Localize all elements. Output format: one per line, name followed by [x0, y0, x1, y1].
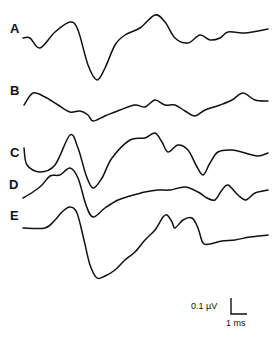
scale-time-label: 1 ms	[226, 318, 246, 328]
trace-e	[23, 207, 268, 279]
trace-d	[23, 168, 268, 217]
trace-label-a: A	[10, 21, 19, 36]
trace-label-e: E	[10, 208, 19, 223]
scale-voltage-label: 0.1 µV	[191, 301, 217, 311]
trace-label-b: B	[10, 83, 19, 98]
figure: A B C D E 0.1 µV 1 ms	[0, 0, 280, 337]
trace-a	[23, 15, 268, 80]
trace-c	[24, 133, 268, 188]
trace-b	[24, 93, 268, 121]
trace-label-c: C	[10, 145, 19, 160]
traces	[23, 15, 268, 279]
trace-label-d: D	[9, 177, 18, 192]
waveform-plot	[0, 0, 280, 337]
scale-bar	[231, 298, 247, 314]
